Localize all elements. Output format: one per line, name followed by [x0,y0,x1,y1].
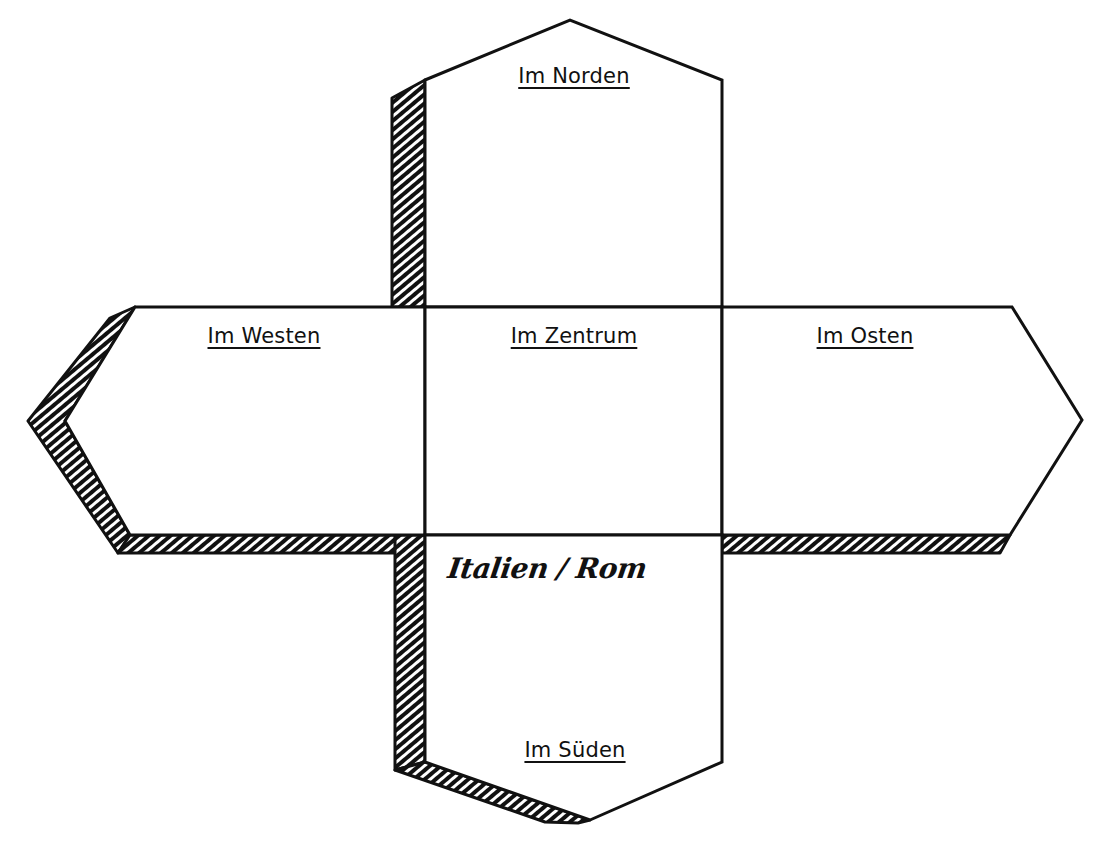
label-east: Im Osten [817,324,914,348]
label-center: Im Zentrum [511,324,638,348]
handwritten-note: Italien / Rom [446,552,649,585]
folding-net-diagram [0,0,1115,865]
label-south: Im Süden [524,738,625,762]
south-left-flap [395,535,425,770]
east-bottom-flap [722,535,1010,553]
label-north: Im Norden [518,64,630,88]
west-bottom-flap [118,535,425,553]
north-left-flap [392,80,425,307]
faces [65,20,1082,820]
label-west: Im Westen [208,324,321,348]
